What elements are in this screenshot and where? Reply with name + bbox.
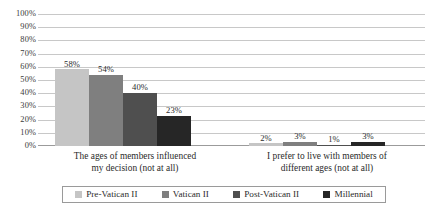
bar-postvatican-group1	[123, 93, 157, 146]
legend-item-post-vatican-ii[interactable]: Post-Vatican II	[233, 190, 299, 199]
category-line-2: different ages (not at all)	[232, 162, 422, 174]
bar-value-label: 3%	[351, 132, 385, 141]
bar-value-label: 2%	[249, 134, 283, 143]
legend-swatch-icon	[75, 191, 82, 198]
category-line-2: my decision (not at all)	[40, 162, 230, 174]
y-axis-tick: 20%	[2, 116, 36, 124]
bar-millennial-group1	[157, 116, 191, 146]
gridline	[38, 14, 425, 15]
y-axis-tick: 40%	[2, 89, 36, 97]
bar-postvatican-group2	[317, 145, 351, 146]
legend-item-millennial[interactable]: Millennial	[323, 190, 372, 199]
legend-label: Post-Vatican II	[244, 190, 299, 199]
legend-item-vatican-ii[interactable]: Vatican II	[162, 190, 209, 199]
gridline	[38, 27, 425, 28]
y-axis-tick: 50%	[2, 76, 36, 84]
plot-area: 58% 54% 40% 23% 2% 3% 1% 3%	[38, 14, 425, 146]
gridline	[38, 54, 425, 55]
bar-value-label: 40%	[123, 83, 157, 92]
bar-value-label: 23%	[157, 106, 191, 115]
legend-swatch-icon	[233, 191, 240, 198]
x-axis-category-label-1: The ages of members influenced my decisi…	[40, 150, 230, 175]
legend-swatch-icon	[162, 191, 169, 198]
legend-label: Millennial	[334, 190, 372, 199]
gridline	[38, 40, 425, 41]
y-axis-tick: 30%	[2, 102, 36, 110]
category-line-1: I prefer to live with members of	[232, 150, 422, 162]
bar-value-label: 1%	[317, 135, 351, 144]
bar-vatican-group1	[89, 75, 123, 146]
legend-item-pre-vatican-ii[interactable]: Pre-Vatican II	[75, 190, 137, 199]
y-axis-tick: 100%	[2, 10, 36, 18]
y-axis-tick: 60%	[2, 63, 36, 71]
chart-legend: Pre-Vatican II Vatican II Post-Vatican I…	[62, 186, 386, 203]
bar-value-label: 54%	[89, 65, 123, 74]
y-axis-tick: 70%	[2, 50, 36, 58]
legend-label: Pre-Vatican II	[86, 190, 137, 199]
y-axis-tick: 0%	[2, 142, 36, 150]
bar-value-label: 3%	[283, 132, 317, 141]
bar-millennial-group2	[351, 142, 385, 146]
bar-vatican-group2	[283, 142, 317, 146]
y-axis-tick: 80%	[2, 36, 36, 44]
bar-prevatican-group2	[249, 143, 283, 146]
y-axis-tick: 10%	[2, 129, 36, 137]
y-axis-tick: 90%	[2, 23, 36, 31]
legend-label: Vatican II	[173, 190, 209, 199]
bar-chart: 100% 90% 80% 70% 60% 50% 40% 30% 20% 10%…	[0, 0, 432, 212]
bar-value-label: 58%	[55, 60, 89, 69]
bar-prevatican-group1	[55, 69, 89, 146]
category-line-1: The ages of members influenced	[40, 150, 230, 162]
legend-swatch-icon	[323, 191, 330, 198]
x-axis-category-label-2: I prefer to live with members of differe…	[232, 150, 422, 175]
